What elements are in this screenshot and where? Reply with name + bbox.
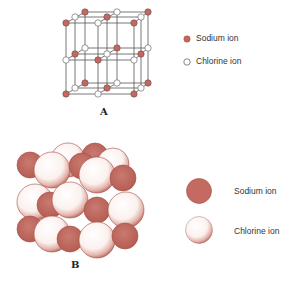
panel-a-label: A — [100, 106, 108, 117]
legend-b-chlorine-label: Chlorine ion — [234, 226, 279, 236]
lattice-diagram-a — [0, 0, 170, 105]
sodium-ion-sphere-icon — [185, 177, 213, 205]
legend-a-chlorine-label: Chlorine ion — [196, 56, 241, 66]
chlorine-ion-dot-icon — [183, 58, 191, 66]
legend-a-sodium-label: Sodium ion — [196, 33, 239, 43]
chlorine-ion-sphere-icon — [184, 215, 214, 245]
legend-b-sodium-label: Sodium ion — [234, 186, 277, 196]
space-filling-model-b — [0, 130, 160, 260]
sodium-ion-dot-icon — [183, 35, 191, 43]
panel-b-label: B — [71, 259, 79, 270]
